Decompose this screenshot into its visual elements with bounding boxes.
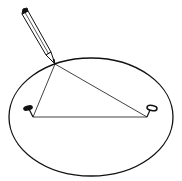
ellipse-diagram: [0, 0, 182, 181]
pin-right-icon: [147, 105, 158, 117]
string: [33, 64, 147, 117]
pencil-icon: [22, 8, 55, 64]
pin-left-icon: [22, 104, 33, 117]
string-to-right-pin: [55, 64, 147, 117]
string-to-left-pin: [33, 64, 55, 117]
